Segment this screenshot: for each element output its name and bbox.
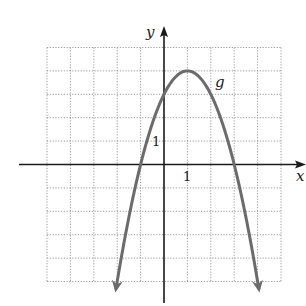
axes — [19, 26, 306, 303]
curve-label-g: g — [215, 73, 225, 91]
x-tick-label-1: 1 — [183, 169, 191, 184]
y-axis-label: y — [145, 23, 155, 41]
x-axis-label: x — [296, 167, 305, 185]
parabola-chart: y x g 1 1 — [0, 0, 306, 306]
y-tick-label-1: 1 — [152, 134, 160, 149]
